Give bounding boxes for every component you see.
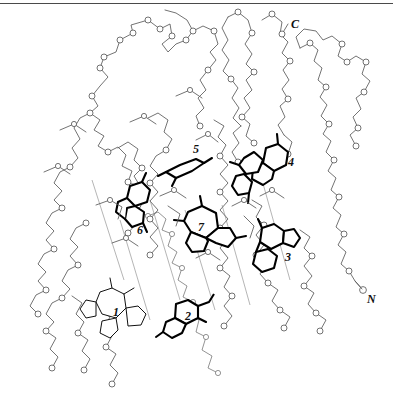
site-label-6: 6: [137, 224, 143, 236]
site-label-3: 3: [285, 251, 291, 263]
c-terminus-label: C: [291, 18, 299, 30]
ligand-site-3: [253, 219, 300, 272]
ligand-site-5: [158, 158, 212, 186]
site-label-4: 4: [288, 156, 294, 168]
site-label-2: 2: [185, 310, 191, 322]
ligand-site-4: [230, 134, 288, 203]
backbone-trace-left: [30, 113, 118, 384]
n-terminus-label: N: [367, 293, 376, 305]
backbone-trace-upper-right: [222, 12, 370, 290]
site-label-1: 1: [113, 306, 119, 318]
protein-structure-figure: .bb { fill:none; stroke:#5a5a5a; stroke-…: [0, 0, 393, 399]
site-label-7: 7: [198, 221, 204, 233]
protein-backbone-diagram: .bb { fill:none; stroke:#5a5a5a; stroke-…: [0, 0, 393, 399]
site-label-5: 5: [193, 143, 199, 155]
